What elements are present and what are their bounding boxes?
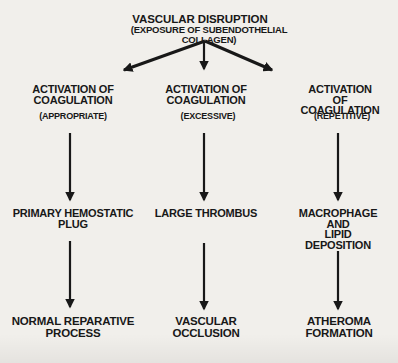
arrow-branch-left: [124, 41, 205, 70]
node-normal-reparative-process: NORMAL REPARATIVE PROCESS: [12, 316, 134, 339]
flowchart-canvas: VASCULAR DISRUPTION (EXPOSURE OF SUBENDO…: [0, 0, 398, 363]
node-primary-hemostatic-plug: PRIMARY HEMOSTATIC PLUG: [13, 208, 134, 229]
label-qualifier-excessive: (EXCESSIVE): [181, 112, 236, 121]
node-vascular-disruption-subtitle: (EXPOSURE OF SUBENDOTHELIAL COLLAGEN): [115, 25, 304, 45]
node-large-thrombus: LARGE THROMBUS: [155, 208, 257, 219]
node-atheroma-formation: ATHEROMA FORMATION: [306, 316, 373, 339]
node-activation-appropriate: ACTIVATION OF COAGULATION: [32, 84, 113, 105]
label-qualifier-appropriate: (APPROPRIATE): [39, 112, 107, 121]
node-activation-excessive: ACTIVATION OF COAGULATION: [165, 84, 246, 105]
label-qualifier-repetitive: (REPETITIVE): [314, 112, 370, 121]
flow-arrows: [0, 0, 398, 363]
node-macrophage-lipid-deposition: MACROPHAGE AND LIPID DEPOSITION: [299, 208, 378, 250]
node-vascular-occlusion: VASCULAR OCCLUSION: [172, 316, 239, 339]
arrow-branch-right: [205, 41, 272, 70]
